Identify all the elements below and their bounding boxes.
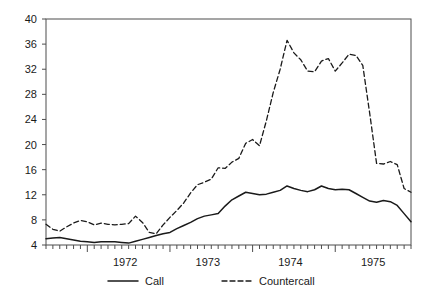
x-tick-label: 1975 bbox=[361, 256, 385, 268]
chart-background bbox=[0, 0, 428, 300]
y-tick-label: 20 bbox=[25, 139, 37, 151]
y-tick-label: 4 bbox=[31, 239, 37, 251]
y-tick-label: 24 bbox=[25, 113, 37, 125]
y-tick-label: 8 bbox=[31, 214, 37, 226]
y-tick-label: 36 bbox=[25, 38, 37, 50]
legend-label-countercall: Countercall bbox=[259, 275, 315, 287]
legend-label-call: Call bbox=[145, 275, 164, 287]
x-tick-label: 1974 bbox=[278, 256, 302, 268]
x-tick-label: 1973 bbox=[196, 256, 220, 268]
y-tick-label: 16 bbox=[25, 164, 37, 176]
y-tick-label: 12 bbox=[25, 189, 37, 201]
y-tick-label: 32 bbox=[25, 63, 37, 75]
chart-figure: 481216202428323640 1972197319741975 Call… bbox=[0, 0, 428, 300]
line-chart: 481216202428323640 1972197319741975 Call… bbox=[0, 0, 428, 300]
y-tick-label: 40 bbox=[25, 13, 37, 25]
y-tick-label: 28 bbox=[25, 88, 37, 100]
x-tick-label: 1972 bbox=[113, 256, 137, 268]
